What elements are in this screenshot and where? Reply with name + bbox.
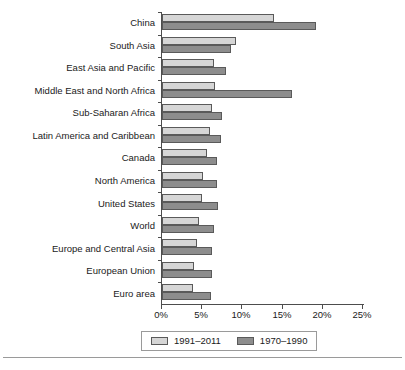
category-label-united-states: United States [98,199,155,209]
chart-row-europe-and-central-asia: Europe and Central Asia [162,237,363,260]
y-axis-tick [158,147,162,148]
y-axis-tick [158,35,162,36]
bar-canada-1991-2011 [162,149,207,157]
y-axis-tick [158,170,162,171]
chart-row-world: World [162,215,363,238]
category-label-latin-america-and-caribbean: Latin America and Caribbean [32,131,155,141]
bar-world-1991-2011 [162,217,199,225]
y-axis-tick [158,282,162,283]
category-label-east-asia-and-pacific: East Asia and Pacific [66,64,155,74]
x-axis-label-2: 10% [231,310,250,320]
bar-north-america-1991-2011 [162,172,203,180]
category-label-middle-east-and-north-africa: Middle East and North Africa [35,86,155,96]
chart-row-canada: Canada [162,147,363,170]
chart-row-middle-east-and-north-africa: Middle East and North Africa [162,80,363,103]
category-label-world: World [130,221,155,231]
chart-row-euro-area: Euro area [162,282,363,305]
bar-canada-1970-1990 [162,157,217,165]
x-axis-label-1: 5% [194,310,208,320]
bar-chart: China South Asia East Asia and Pacific M… [0,0,405,370]
bar-latin-america-and-caribbean-1991-2011 [162,127,210,135]
chart-row-south-asia: South Asia [162,35,363,58]
y-axis-tick [158,192,162,193]
x-axis-label-0: 0% [154,310,168,320]
chart-row-united-states: United States [162,192,363,215]
bar-european-union-1991-2011 [162,262,194,270]
bar-european-union-1970-1990 [162,270,212,278]
x-axis-label-3: 15% [272,310,291,320]
x-axis-label-4: 20% [312,310,331,320]
bar-north-america-1970-1990 [162,180,217,188]
bar-east-asia-and-pacific-1991-2011 [162,59,214,67]
y-axis-tick [158,12,162,13]
category-label-euro-area: Euro area [113,289,155,299]
chart-row-latin-america-and-caribbean: Latin America and Caribbean [162,125,363,148]
bar-euro-area-1991-2011 [162,284,193,292]
bar-united-states-1991-2011 [162,194,202,202]
x-axis-label-5: 25% [352,310,371,320]
bar-europe-and-central-asia-1970-1990 [162,247,212,255]
y-axis-tick [158,102,162,103]
bar-middle-east-and-north-africa-1991-2011 [162,82,215,90]
legend-entry-1970-1990: 1970–1990 [237,336,308,346]
legend-label-1970-1990: 1970–1990 [260,336,308,346]
y-axis-tick [158,237,162,238]
legend-entry-1991-2011: 1991–2011 [151,336,221,346]
legend-swatch-icon-1991-2011 [151,337,168,345]
legend-swatch-icon-1970-1990 [237,337,254,345]
chart-row-sub-saharan-africa: Sub-Saharan Africa [162,102,363,125]
chart-row-european-union: European Union [162,260,363,283]
y-axis-tick [158,215,162,216]
category-label-north-america: North America [95,176,155,186]
chart-row-east-asia-and-pacific: East Asia and Pacific [162,57,363,80]
bar-sub-saharan-africa-1970-1990 [162,112,222,120]
bar-united-states-1970-1990 [162,202,218,210]
category-label-european-union: European Union [86,266,155,276]
category-label-canada: Canada [122,154,155,164]
bar-sub-saharan-africa-1991-2011 [162,104,212,112]
bar-south-asia-1991-2011 [162,37,236,45]
bar-china-1991-2011 [162,14,274,22]
bottom-divider [3,357,402,358]
y-axis-tick [158,125,162,126]
chart-row-china: China [162,12,363,35]
chart-legend: 1991–2011 1970–1990 [141,331,317,351]
category-label-china: China [130,19,155,29]
category-label-south-asia: South Asia [110,41,155,51]
plot-area: China South Asia East Asia and Pacific M… [162,12,363,305]
bar-world-1970-1990 [162,225,214,233]
chart-row-north-america: North America [162,170,363,193]
bar-china-1970-1990 [162,22,316,30]
y-axis-tick [158,80,162,81]
y-axis-tick [158,260,162,261]
y-axis-tick [158,57,162,58]
legend-label-1991-2011: 1991–2011 [174,336,221,346]
bar-south-asia-1970-1990 [162,45,231,53]
bar-euro-area-1970-1990 [162,292,211,300]
category-label-europe-and-central-asia: Europe and Central Asia [52,244,155,254]
bar-latin-america-and-caribbean-1970-1990 [162,135,221,143]
bar-europe-and-central-asia-1991-2011 [162,239,197,247]
bar-middle-east-and-north-africa-1970-1990 [162,90,292,98]
category-label-sub-saharan-africa: Sub-Saharan Africa [73,109,155,119]
bar-east-asia-and-pacific-1970-1990 [162,67,226,75]
